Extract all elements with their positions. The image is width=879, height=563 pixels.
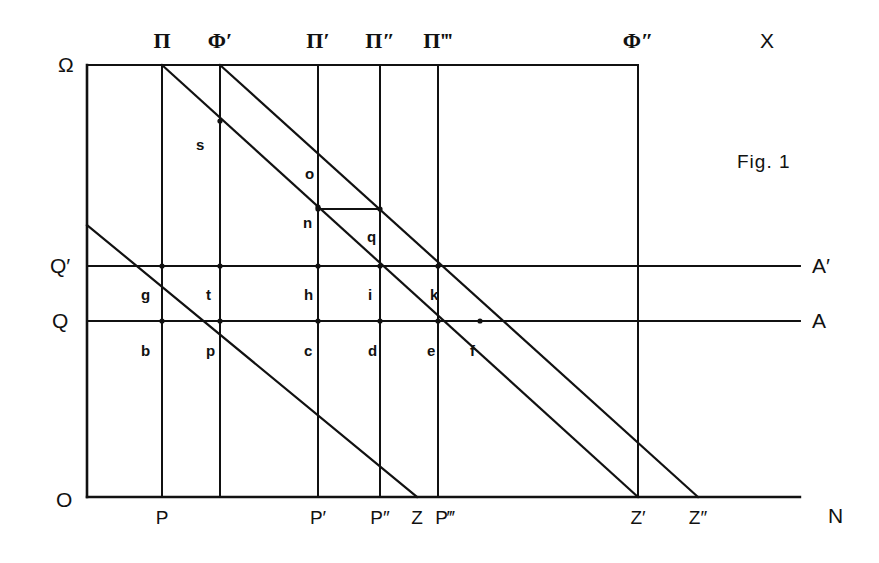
intersection-dot-i — [377, 263, 382, 268]
top-label-1: Φ′ — [208, 30, 232, 52]
label-q-prime: Q′ — [50, 255, 70, 276]
bottom-label-0: P — [156, 508, 169, 527]
bottom-label-3: Z — [411, 508, 423, 527]
point-label-i: i — [368, 287, 372, 302]
intersection-dot-p — [217, 318, 222, 323]
intersection-dot-d — [377, 318, 382, 323]
label-q: Q — [52, 310, 68, 331]
intersection-dot-c — [315, 318, 320, 323]
intersection-dot-s — [217, 118, 222, 123]
point-label-n: n — [303, 215, 312, 230]
point-label-e: e — [427, 343, 435, 358]
point-label-g: g — [141, 287, 150, 302]
label-a: A — [812, 310, 826, 331]
intersection-dot-q — [377, 206, 382, 211]
intersection-dot-f — [477, 318, 482, 323]
point-label-k: k — [430, 287, 438, 302]
point-label-p: p — [206, 343, 215, 358]
top-label-4: Π‴ — [423, 30, 452, 52]
top-label-5: Φ″ — [623, 30, 653, 52]
point-label-q: q — [367, 229, 376, 244]
diagram-canvas — [0, 0, 879, 563]
point-label-s: s — [196, 137, 204, 152]
bottom-label-1: P′ — [310, 508, 326, 527]
intersection-dot-b — [159, 318, 164, 323]
bottom-label-6: Z″ — [689, 508, 707, 527]
label-origin: O — [56, 489, 72, 510]
bottom-label-2: P″ — [370, 508, 389, 527]
label-a-prime: A′ — [812, 255, 830, 276]
label-x-axis-top: X — [760, 30, 774, 51]
bottom-label-5: Z′ — [630, 508, 645, 527]
diagonal-line-1 — [220, 65, 698, 497]
top-label-2: Π′ — [306, 30, 329, 52]
intersection-dot-n — [315, 206, 320, 211]
point-label-h: h — [304, 287, 313, 302]
point-label-t: t — [206, 287, 211, 302]
point-label-o: o — [305, 166, 314, 181]
point-label-d: d — [368, 343, 377, 358]
figure-container: Ω X A′ A Q′ Q O N Fig. 1 ΠΦ′Π′Π″Π‴Φ″ PP′… — [0, 0, 879, 563]
intersection-dot-e — [435, 318, 440, 323]
intersection-dot-k — [435, 263, 440, 268]
intersection-dot-h — [315, 263, 320, 268]
label-omega: Ω — [58, 54, 74, 75]
label-n-axis-end: N — [828, 505, 843, 526]
point-label-f: f — [470, 343, 475, 358]
figure-caption: Fig. 1 — [737, 152, 791, 171]
diagonal-line-0 — [162, 65, 638, 497]
intersection-dot-t — [217, 263, 222, 268]
top-label-3: Π″ — [365, 30, 394, 52]
point-label-c: c — [304, 343, 312, 358]
bottom-label-4: P‴ — [435, 508, 454, 527]
top-label-0: Π — [153, 30, 170, 52]
intersection-dot-g — [159, 263, 164, 268]
point-label-b: b — [141, 343, 150, 358]
